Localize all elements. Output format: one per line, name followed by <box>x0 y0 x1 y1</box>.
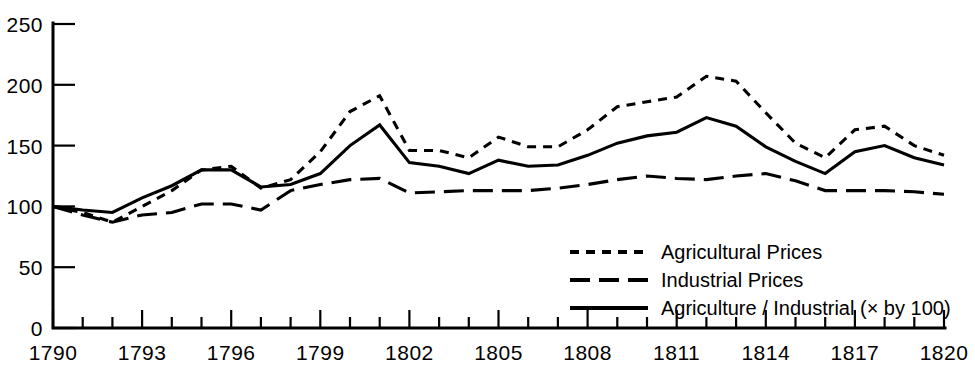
y-tick-label-250: 250 <box>6 13 43 36</box>
x-tick-label-1808: 1808 <box>563 341 612 364</box>
x-tick-label-1817: 1817 <box>831 341 880 364</box>
y-tick-label-0: 0 <box>31 317 43 340</box>
x-tick-label-1793: 1793 <box>118 341 167 364</box>
x-tick-label-1790: 1790 <box>29 341 78 364</box>
chart-container: 050100150200250 179017931796179918021805… <box>0 0 975 374</box>
y-axis: 050100150200250 <box>6 13 945 340</box>
legend-label-0: Agricultural Prices <box>661 241 822 263</box>
legend-label-1: Industrial Prices <box>661 269 803 291</box>
x-tick-label-1802: 1802 <box>385 341 434 364</box>
series-line-2 <box>53 118 944 213</box>
series-lines <box>53 76 944 222</box>
series-line-0 <box>53 76 944 222</box>
line-chart: 050100150200250 179017931796179918021805… <box>0 0 975 374</box>
y-tick-label-150: 150 <box>6 135 43 158</box>
x-tick-label-1805: 1805 <box>474 341 523 364</box>
legend-label-2: Agriculture / Industrial (× by 100) <box>661 297 951 319</box>
x-tick-label-1796: 1796 <box>207 341 256 364</box>
x-tick-label-1811: 1811 <box>653 341 700 364</box>
y-tick-label-50: 50 <box>19 256 43 279</box>
x-tick-label-1814: 1814 <box>741 341 790 364</box>
x-tick-label-1799: 1799 <box>296 341 345 364</box>
y-tick-label-100: 100 <box>6 195 43 218</box>
chart-legend: Agricultural PricesIndustrial PricesAgri… <box>570 241 951 319</box>
y-tick-label-200: 200 <box>6 74 43 97</box>
x-tick-label-1820: 1820 <box>920 341 969 364</box>
